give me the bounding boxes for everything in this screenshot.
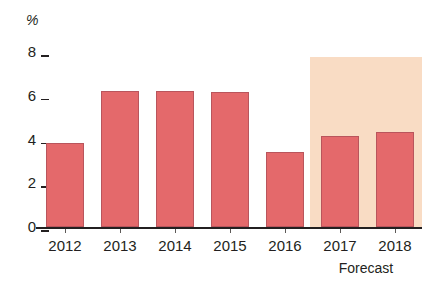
bar-2013	[101, 91, 139, 227]
bar-chart: % 86420 2012201320142015201620172018 For…	[0, 0, 425, 283]
plot-area: % 86420 2012201320142015201620172018 For…	[0, 0, 425, 283]
bar-2016	[266, 152, 304, 227]
x-tick-mark-2014	[175, 229, 176, 233]
y-axis-unit-label: %	[26, 12, 38, 28]
x-axis-label-2015: 2015	[203, 236, 257, 256]
y-tick-label: 4	[22, 132, 36, 148]
bar-2014	[156, 91, 194, 227]
x-axis-label-2012: 2012	[38, 236, 92, 256]
x-axis-label-2013: 2013	[93, 236, 147, 256]
y-tick-label: 6	[22, 88, 36, 104]
y-tick-mark	[41, 55, 49, 57]
y-tick-label: 8	[22, 44, 36, 60]
y-tick-mark	[41, 99, 49, 101]
y-tick-label: 2	[22, 175, 36, 191]
x-axis-label-2018: 2018	[368, 236, 422, 256]
y-tick-mark	[41, 230, 49, 232]
y-tick-6: 6	[22, 88, 56, 104]
x-axis-baseline	[36, 227, 422, 229]
x-tick-mark-2017	[340, 229, 341, 233]
x-axis-label-2014: 2014	[148, 236, 202, 256]
y-tick-label: 0	[22, 219, 36, 235]
x-tick-mark-2013	[120, 229, 121, 233]
bar-2018	[376, 132, 414, 227]
bar-2012	[46, 143, 84, 227]
x-tick-mark-2015	[230, 229, 231, 233]
bar-2015	[211, 92, 249, 227]
x-axis-label-2016: 2016	[258, 236, 312, 256]
x-tick-mark-2016	[285, 229, 286, 233]
x-tick-mark-2018	[395, 229, 396, 233]
y-tick-8: 8	[22, 44, 56, 60]
x-axis-label-2017: 2017	[313, 236, 367, 256]
x-tick-mark-2012	[65, 229, 66, 233]
forecast-caption: Forecast	[310, 260, 422, 276]
bar-2017	[321, 136, 359, 227]
